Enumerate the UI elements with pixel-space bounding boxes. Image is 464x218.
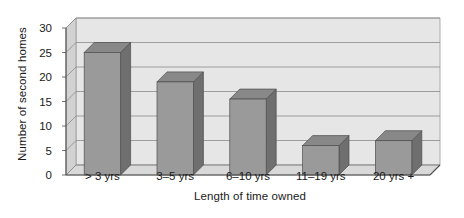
x-axis-tick-label: > 3 yrs — [85, 170, 120, 182]
bar-chart: 051015202530 > 3 yrs3–5 yrs6–10 yrs11–19… — [0, 0, 464, 218]
x-axis-tick-label: 6–10 yrs — [226, 170, 270, 182]
x-axis-tick-label: 11–19 yrs — [296, 170, 346, 182]
x-axis-tick-label: 3–5 yrs — [156, 170, 194, 182]
y-axis-title: Number of second homes — [16, 4, 28, 184]
x-axis-tick-labels: > 3 yrs3–5 yrs6–10 yrs11–19 yrs20 yrs + — [0, 0, 464, 218]
x-axis-tick-label: 20 yrs + — [373, 170, 414, 182]
x-axis-title: Length of time owned — [60, 190, 440, 202]
